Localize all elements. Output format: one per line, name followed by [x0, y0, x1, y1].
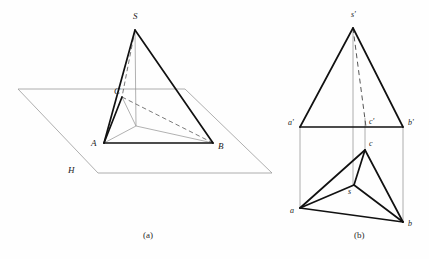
label-b-prime: b'	[408, 119, 414, 127]
figure-a-group	[18, 30, 272, 173]
caption-b: (b)	[354, 231, 365, 240]
caption-a: (a)	[143, 231, 153, 240]
label-b-lower: b	[408, 220, 412, 228]
label-s-prime: s'	[351, 11, 356, 19]
label-c-prime: c'	[369, 118, 374, 126]
label-a-prime: a'	[288, 119, 294, 127]
label-apex-s: S	[133, 12, 138, 21]
front-view-edges	[300, 28, 403, 127]
figure-container: S A B C H s' a' b' c' a b c s (a) (b)	[0, 0, 429, 259]
label-plane-h: H	[68, 166, 75, 175]
top-view-edges	[300, 150, 403, 222]
figure-b-group	[300, 28, 403, 222]
label-vertex-c: C	[114, 87, 120, 96]
figure-drawing	[0, 0, 429, 259]
label-s-lower: s	[348, 188, 351, 196]
label-vertex-b: B	[218, 142, 224, 151]
hidden-edge-sc-prime	[353, 28, 366, 127]
pyramid-edges-a	[104, 30, 213, 143]
label-c-lower: c	[369, 140, 373, 148]
label-vertex-a: A	[91, 139, 97, 148]
plane-h-shape	[18, 89, 272, 173]
label-a-lower: a	[290, 207, 294, 215]
